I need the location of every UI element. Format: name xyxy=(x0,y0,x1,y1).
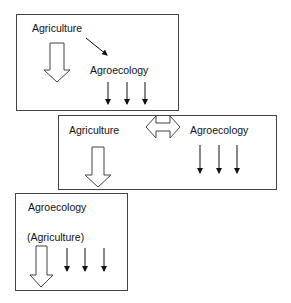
hollow-down-arrow-icon xyxy=(85,147,111,187)
hollow-down-arrow-icon xyxy=(44,43,70,82)
hollow-down-arrow-icon xyxy=(30,246,53,287)
diagram-arrows xyxy=(0,0,291,303)
diagonal-arrow-icon xyxy=(86,38,107,55)
double-headed-arrow-icon xyxy=(146,116,180,138)
